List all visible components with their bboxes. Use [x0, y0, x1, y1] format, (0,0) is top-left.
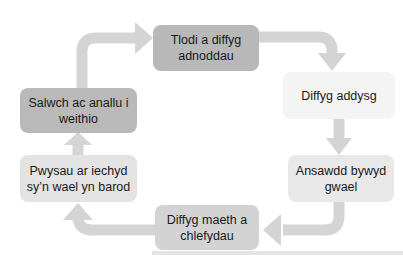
- node-label: Ansawdd bywyd gwael: [292, 163, 390, 195]
- arrow-left-top-to-top: [82, 38, 137, 88]
- node-label: Tlodi a diffyg adnoddau: [157, 32, 255, 64]
- node-diffyg-maeth: Diffyg maeth a chlefydau: [155, 205, 259, 250]
- node-pwysau-iechyd: Pwysau ar iechyd sy’n wael yn barod: [20, 155, 137, 202]
- node-label: Diffyg maeth a chlefydau: [159, 212, 255, 244]
- node-ansawdd-bywyd: Ansawdd bywyd gwael: [288, 155, 394, 202]
- arrowhead-to-bottom: [263, 214, 281, 246]
- node-salwch: Salwch ac anallu i weithio: [20, 88, 137, 133]
- node-label: Salwch ac anallu i weithio: [24, 95, 133, 127]
- node-tlodi: Tlodi a diffyg adnoddau: [153, 25, 259, 71]
- arrowhead-to-right-bottom: [326, 138, 352, 155]
- divider-rule: [152, 251, 403, 255]
- arrow-right-bottom-to-bottom: [283, 202, 339, 230]
- arrowhead-to-top: [135, 22, 153, 54]
- node-label: Pwysau ar iechyd sy’n wael yn barod: [24, 163, 133, 195]
- arrowhead-to-right-top: [318, 53, 346, 71]
- arrowhead-to-left-bottom: [63, 203, 93, 220]
- node-diffyg-addysg: Diffyg addysg: [283, 72, 395, 119]
- arrowhead-to-left-top: [64, 132, 92, 145]
- node-label: Diffyg addysg: [301, 88, 377, 104]
- arrow-top-to-right-top: [258, 37, 332, 55]
